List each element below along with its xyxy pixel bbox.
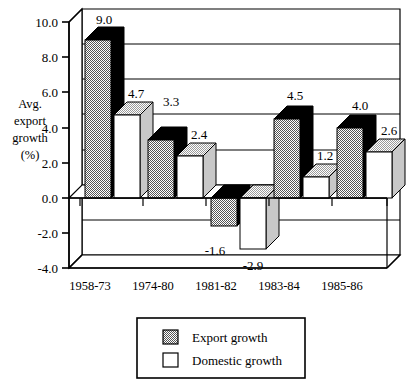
category-label: 1981-82	[195, 279, 237, 293]
category-label: 1985-86	[321, 279, 363, 293]
y-tick-label: 8.0	[42, 50, 58, 65]
category-label: 1958-73	[69, 279, 111, 293]
bar-domestic-1958-73	[114, 102, 153, 198]
value-label-export: 4.5	[287, 88, 303, 103]
chart-canvas: 10.0 8.0 6.0 4.0 2.0 0.0 -2.0 -4.0 Avg. …	[0, 0, 413, 392]
value-label-domestic: 4.7	[128, 86, 145, 101]
bar-domestic-1981-82	[240, 185, 279, 249]
y-tick-label: -2.0	[37, 226, 58, 241]
legend-label-domestic: Domestic growth	[192, 353, 282, 368]
value-label-domestic: 2.4	[191, 127, 208, 142]
y-tick-label: 0.0	[42, 191, 58, 206]
legend-label-export: Export growth	[192, 330, 268, 345]
value-label-export: 3.3	[163, 94, 179, 109]
y-tick-labels: 10.0 8.0 6.0 4.0 2.0 0.0 -2.0 -4.0	[35, 15, 58, 276]
legend-swatch-domestic	[163, 353, 178, 367]
y-tick-label: 10.0	[35, 15, 58, 30]
category-label: 1974-80	[132, 279, 174, 293]
value-label-export: -1.6	[205, 243, 226, 258]
y-axis-title-line: export	[14, 114, 46, 128]
value-label-domestic: 1.2	[317, 148, 333, 163]
value-label-export: 9.0	[96, 12, 112, 27]
value-label-export: 4.0	[352, 98, 368, 113]
y-axis-title-line: Avg.	[18, 97, 42, 111]
y-tick-label: 6.0	[42, 85, 58, 100]
y-tick-label: -4.0	[37, 261, 58, 276]
y-axis-ticks	[62, 22, 69, 268]
x-category-labels: 1958-73 1974-80 1981-82 1983-84 1985-86	[69, 279, 363, 293]
bar-chart: 10.0 8.0 6.0 4.0 2.0 0.0 -2.0 -4.0 Avg. …	[0, 0, 413, 392]
value-label-domestic: 2.6	[381, 123, 398, 138]
value-label-domestic: -2.9	[243, 258, 264, 273]
y-axis-title-line: (%)	[21, 148, 40, 162]
category-label: 1983-84	[258, 279, 300, 293]
bar-domestic-1985-86	[366, 139, 405, 198]
legend-swatch-export	[163, 330, 178, 344]
y-axis-title-line: growth	[12, 131, 48, 145]
plot-left-wall	[69, 9, 82, 268]
y-tick-label: 2.0	[42, 156, 58, 171]
legend: Export growth Domestic growth	[137, 318, 305, 378]
bar-domestic-1974-80	[177, 143, 216, 198]
plot-floor-bottom	[69, 255, 400, 268]
